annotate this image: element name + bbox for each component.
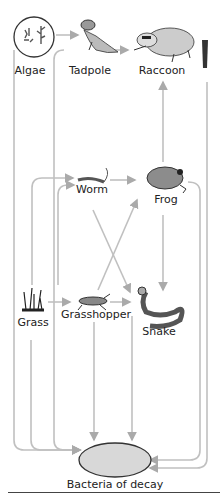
label-bacteria: Bacteria of decay xyxy=(67,479,163,491)
arrow-grass-worm xyxy=(32,178,73,285)
label-raccoon: Raccoon xyxy=(139,65,186,77)
label-worm: Worm xyxy=(76,184,108,196)
grass-icon xyxy=(22,288,44,310)
label-grass: Grass xyxy=(17,317,48,329)
worm-icon xyxy=(78,168,108,182)
arrows xyxy=(14,35,207,468)
arrow-grass-bacteria xyxy=(31,340,80,450)
bacteria-icon xyxy=(79,443,151,477)
arrow-grass-worm-2 xyxy=(58,185,74,285)
label-tadpole: Tadpole xyxy=(69,65,111,77)
raccoon-icon xyxy=(134,28,208,68)
bottom-divider xyxy=(8,492,220,493)
arrow-grasshopper-frog xyxy=(98,200,137,290)
arrow-raccoon-bacteria xyxy=(150,82,207,468)
arrow-worm-snake xyxy=(93,210,130,292)
frog-icon xyxy=(147,167,186,193)
snake-icon xyxy=(138,287,182,326)
label-algae: Algae xyxy=(14,65,45,77)
arrow-algae-bacteria xyxy=(14,50,80,450)
algae-icon xyxy=(14,17,54,57)
label-snake: Snake xyxy=(142,326,175,338)
label-frog: Frog xyxy=(154,194,178,206)
label-grasshopper: Grasshopper xyxy=(61,309,131,321)
tadpole-icon xyxy=(81,20,118,53)
